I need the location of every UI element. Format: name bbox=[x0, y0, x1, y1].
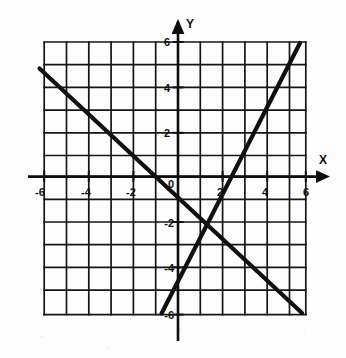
x-tick-label: 2 bbox=[217, 186, 223, 198]
x-tick-label: -6 bbox=[35, 186, 45, 198]
y-tick-label: 2 bbox=[164, 127, 170, 139]
x-tick-label: -2 bbox=[126, 186, 136, 198]
x-tick-label: 6 bbox=[303, 186, 309, 198]
coordinate-plane-plot: -6 -4 -2 2 4 6 6 4 2 0 -2 -4 -6 X Y bbox=[0, 0, 346, 358]
y-axis-arrow-icon bbox=[172, 19, 185, 34]
y-tick-label: 4 bbox=[164, 82, 171, 94]
ascending-line-series bbox=[162, 43, 301, 314]
x-tick-label: 4 bbox=[262, 186, 269, 198]
y-tick-label: 0 bbox=[168, 178, 174, 190]
y-tick-label: -4 bbox=[164, 262, 175, 274]
x-axis-arrow-icon bbox=[316, 170, 330, 183]
y-tick-label: -6 bbox=[164, 309, 174, 321]
y-axis-label: Y bbox=[186, 17, 194, 31]
y-tick-label: 6 bbox=[164, 36, 170, 48]
x-tick-label: -4 bbox=[81, 186, 92, 198]
y-tick-label: -2 bbox=[164, 217, 174, 229]
x-axis-label: X bbox=[319, 153, 327, 167]
graph-figure: -6 -4 -2 2 4 6 6 4 2 0 -2 -4 -6 X Y bbox=[0, 0, 346, 358]
